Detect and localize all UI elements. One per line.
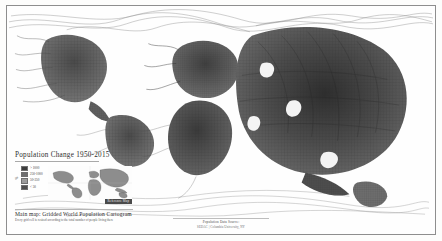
legend-swatch [21,172,29,178]
legend-title: Population Change 1950-2015 [15,151,145,159]
legend-item: 250-1000 [21,172,43,178]
legend-item-label: < 50 [30,186,36,189]
legend-title-divider [15,161,99,162]
inset-map-tag: Reference Map [105,199,132,204]
legend-axis-unit: % [15,166,19,191]
caption-heading: Main map: Gridded World Population Carto… [15,211,145,217]
credits-source-label: Population Data Source: [7,220,435,224]
legend-item-label: 250-1000 [30,173,43,176]
legend-item: 50-250 [21,178,43,184]
legend-swatch [21,166,29,172]
legend-swatch-list: > 1000 250-1000 50-250 < 50 [21,166,43,191]
legend-swatch [21,185,29,191]
legend-axis-unit-label: % [15,177,19,180]
inset-reference-map: Reference Map [48,166,132,204]
credits-source-name: SEDAC | Columbia University, NY [7,225,435,229]
legend-item: < 50 [21,185,43,191]
caption-divider [15,209,133,210]
legend-item: > 1000 [21,166,43,172]
legend-scale: % > 1000 250-1000 50-250 [15,166,43,191]
poster-frame: Population Change 1950-2015 % > 1000 [6,5,436,235]
credits-block: Population Data Source: SEDAC | Columbia… [7,218,435,229]
legend-panel: Population Change 1950-2015 % > 1000 [15,151,145,222]
legend-swatch [21,178,29,184]
legend-item-label: > 1000 [30,167,39,170]
legend-item-label: 50-250 [30,179,39,182]
poster-canvas: Population Change 1950-2015 % > 1000 [0,0,442,241]
credits-divider [173,218,269,219]
